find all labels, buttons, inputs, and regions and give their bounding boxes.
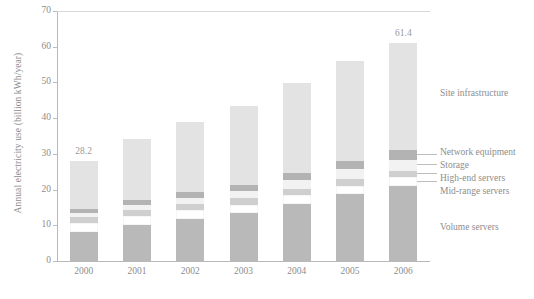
bar-segment[interactable] [283, 195, 311, 204]
y-tick-label: 20 [21, 184, 51, 194]
stacked-bar[interactable] [123, 139, 151, 262]
bar-segment[interactable] [389, 186, 417, 262]
stacked-bar[interactable] [336, 61, 364, 262]
y-tick-mark [53, 225, 57, 226]
legend-leader-line [417, 154, 437, 155]
bar-segment[interactable] [336, 169, 364, 179]
legend-leader-line [417, 181, 437, 182]
bar-segment[interactable] [176, 210, 204, 219]
legend-label[interactable]: Storage [440, 160, 469, 170]
x-tick-label: 2006 [380, 266, 426, 276]
bar-segment[interactable] [336, 194, 364, 262]
stacked-bar[interactable] [389, 43, 417, 262]
legend-label[interactable]: Network equipment [440, 147, 516, 157]
bar-segment[interactable] [123, 139, 151, 200]
bar-segment[interactable] [123, 225, 151, 262]
y-tick-label: 10 [21, 219, 51, 229]
bar-segment[interactable] [70, 223, 98, 232]
bar-segment[interactable] [230, 213, 258, 262]
bar-segment[interactable] [336, 186, 364, 195]
bar-value-label: 28.2 [61, 146, 107, 156]
y-tick-mark [53, 261, 57, 262]
bar-segment[interactable] [389, 177, 417, 186]
stacked-bar[interactable] [176, 122, 204, 262]
stacked-bar[interactable] [283, 83, 311, 262]
bar-segment[interactable] [389, 150, 417, 159]
bar-segment[interactable] [123, 216, 151, 225]
x-tick-label: 2002 [167, 266, 213, 276]
y-tick-mark [53, 11, 57, 12]
bar-segment[interactable] [176, 122, 204, 192]
bar-segment[interactable] [230, 106, 258, 185]
legend-leader-line [417, 164, 437, 165]
y-tick-label: 50 [21, 76, 51, 86]
y-tick-mark [53, 82, 57, 83]
bar-segment[interactable] [176, 219, 204, 262]
bar-segment[interactable] [389, 43, 417, 151]
y-tick-mark [53, 47, 57, 48]
y-tick-label: 30 [21, 148, 51, 158]
stacked-bar[interactable] [70, 161, 98, 262]
x-tick-label: 2000 [61, 266, 107, 276]
bar-segment[interactable] [389, 160, 417, 171]
top-gridline [57, 11, 430, 12]
y-axis-line [57, 11, 58, 262]
y-tick-mark [53, 118, 57, 119]
legend-label[interactable]: High-end servers [440, 173, 505, 183]
y-tick-label: 60 [21, 41, 51, 51]
x-tick-label: 2003 [221, 266, 267, 276]
x-tick-label: 2005 [327, 266, 373, 276]
bar-segment[interactable] [70, 161, 98, 209]
bar-segment[interactable] [70, 232, 98, 262]
bar-segment[interactable] [230, 191, 258, 198]
x-tick-label: 2004 [274, 266, 320, 276]
legend-label[interactable]: Mid-range servers [440, 186, 509, 196]
bar-segment[interactable] [283, 83, 311, 172]
y-tick-label: 0 [21, 255, 51, 265]
chart-canvas: Annual electricity use (billion kWh/year… [0, 0, 534, 299]
bar-segment[interactable] [230, 205, 258, 214]
bar-segment[interactable] [283, 204, 311, 262]
bar-segment[interactable] [336, 61, 364, 161]
y-tick-mark [53, 154, 57, 155]
legend-leader-line [417, 173, 437, 174]
bar-segment[interactable] [283, 180, 311, 189]
y-tick-mark [53, 190, 57, 191]
bar-segment[interactable] [336, 161, 364, 170]
stacked-bar[interactable] [230, 106, 258, 262]
bar-segment[interactable] [283, 173, 311, 181]
x-tick-label: 2001 [114, 266, 160, 276]
y-tick-label: 70 [21, 5, 51, 15]
bar-value-label: 61.4 [380, 28, 426, 38]
legend-label[interactable]: Site infrastructure [440, 88, 508, 98]
y-tick-label: 40 [21, 112, 51, 122]
legend-label[interactable]: Volume servers [440, 222, 499, 232]
y-axis-title: Annual electricity use (billion kWh/year… [13, 18, 23, 248]
